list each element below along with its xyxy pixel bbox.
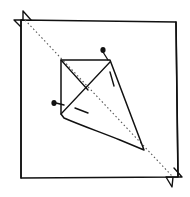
- short-dash-left: [75, 108, 88, 113]
- corner-marker-bottom-right: [166, 22, 182, 187]
- crease-top-right: [61, 62, 110, 114]
- short-dash-right: [110, 72, 114, 86]
- pin-left-head: [51, 100, 56, 106]
- pin-top-shaft: [103, 52, 108, 60]
- diagram-canvas: [0, 0, 190, 197]
- pin-top-head: [100, 47, 105, 53]
- corner-marker-top-left: [14, 11, 31, 178]
- fold-diagram: [0, 0, 190, 197]
- crease-top-left: [61, 60, 88, 90]
- diagonal-fold-line: [25, 20, 173, 177]
- pin-left-shaft: [56, 103, 64, 105]
